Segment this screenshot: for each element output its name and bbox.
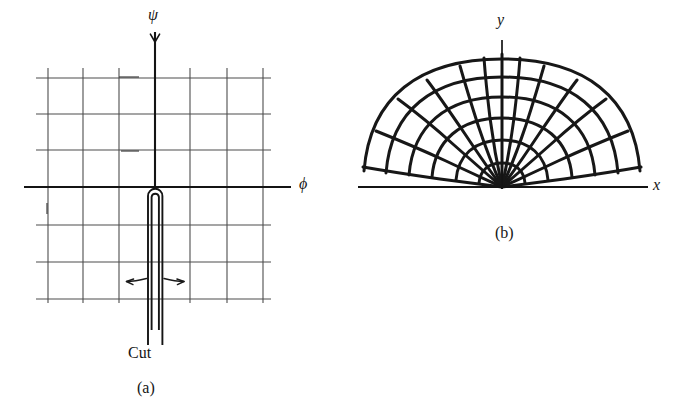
figure-root: ψ ϕ Cut (a) <box>0 0 680 419</box>
panel-a-diagram <box>0 0 340 419</box>
grid-stub-marks <box>47 77 139 214</box>
psi-axis-label: ψ <box>148 6 158 24</box>
psi-axis-arrowhead <box>142 22 168 44</box>
x-axis-label: x <box>653 176 660 194</box>
phi-axis-label: ϕ <box>299 175 307 193</box>
panel-b-diagram <box>340 0 680 419</box>
cut-outer-outline <box>148 189 162 345</box>
panel-b-caption: (b) <box>495 224 514 242</box>
y-axis-label: y <box>497 11 504 29</box>
cut-opening-arrows <box>127 279 185 285</box>
panel-a-caption: (a) <box>137 379 155 397</box>
cut-label: Cut <box>128 344 151 362</box>
branch-cut-slit <box>148 189 162 345</box>
phi-psi-grid <box>36 68 271 303</box>
